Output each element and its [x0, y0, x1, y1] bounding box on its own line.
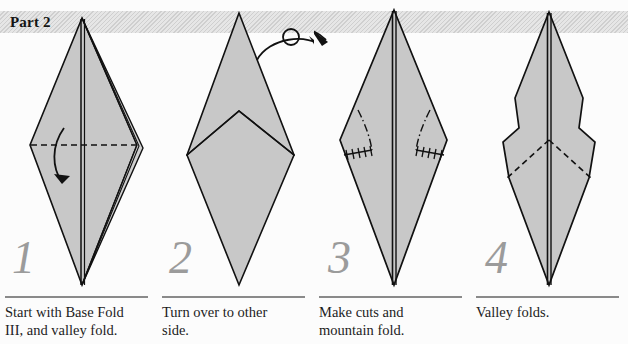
caption-line-1b: III, and valley fold. [5, 322, 150, 340]
caption-rule-3 [319, 296, 462, 298]
step-number-1: 1 [12, 235, 35, 281]
step-number-3: 3 [328, 235, 351, 281]
step-figure-1: 1 [0, 0, 157, 292]
caption-rule-2 [162, 296, 305, 298]
turnover-arrow-tail-head-3 [314, 28, 328, 46]
caption-rule-1 [5, 296, 148, 298]
part-label: Part 2 [10, 12, 51, 32]
caption-block-4: Valley folds. [476, 296, 621, 322]
paper-body-4 [503, 12, 595, 285]
caption-block-3: Make cuts and mountain fold. [319, 296, 464, 339]
caption-line-1a: Start with Base Fold [5, 304, 150, 322]
paper-body-1 [30, 18, 137, 285]
caption-line-3a: Make cuts and [319, 304, 464, 322]
step-number-2: 2 [169, 235, 192, 281]
step-figure-2: 2 [157, 0, 314, 292]
step-number-4: 4 [485, 235, 508, 281]
caption-line-4a: Valley folds. [476, 304, 621, 322]
step-figure-4: 4 [471, 0, 628, 292]
caption-rule-4 [476, 296, 619, 298]
paper-body-3 [340, 10, 447, 285]
turnover-arrow-loop-2 [283, 29, 299, 45]
caption-line-2b: side. [162, 322, 307, 340]
origami-instructions-page: Part 2 1 [0, 0, 628, 344]
caption-line-3b: mountain fold. [319, 322, 464, 340]
caption-block-2: Turn over to other side. [162, 296, 307, 339]
step-figure-3: 3 [314, 0, 471, 292]
caption-line-2a: Turn over to other [162, 304, 307, 322]
caption-block-1: Start with Base Fold III, and valley fol… [5, 296, 150, 339]
